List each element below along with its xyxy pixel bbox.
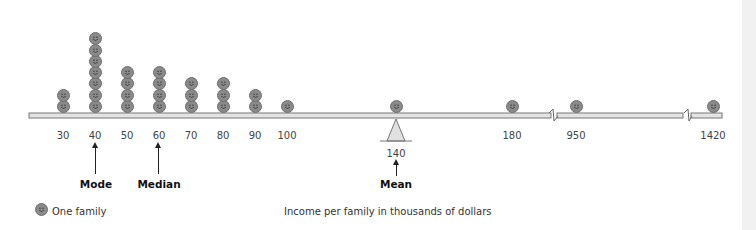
family-face-icon [89,44,102,57]
family-face-icon [217,77,230,90]
family-face-icon [185,89,198,102]
tick-label: 40 [89,130,102,141]
family-face-icon [153,100,166,113]
tick-label: 30 [57,130,70,141]
legend-label: One family [52,206,106,217]
legend-face-icon [35,203,48,216]
family-face-icon [707,100,720,113]
tick-label: 1420 [700,130,725,141]
family-face-icon [217,100,230,113]
family-face-icon [570,100,583,113]
mode-label: Mode [80,178,112,190]
tick-label: 70 [185,130,198,141]
family-face-icon [153,77,166,90]
family-face-icon [121,77,134,90]
tick-label: 180 [502,130,521,141]
family-face-icon [390,100,403,113]
family-face-icon [249,100,262,113]
family-face-icon [89,32,102,45]
family-face-icon [57,100,70,113]
family-face-icon [121,89,134,102]
tick-label: 100 [277,130,296,141]
mode-arrow-icon [95,147,96,174]
median-arrow-icon [158,147,159,174]
family-face-icon [153,66,166,79]
family-face-icon [121,66,134,79]
family-face-icon [249,89,262,102]
tick-label: 950 [566,130,585,141]
family-face-icon [281,100,294,113]
family-face-icon [89,100,102,113]
mean-label: Mean [380,178,412,190]
page-edge [742,0,756,230]
tick-label: 50 [121,130,134,141]
fulcrum-icon [387,119,405,141]
fulcrum-tick-label: 140 [386,148,405,159]
family-face-icon [57,89,70,102]
family-face-icon [217,89,230,102]
family-face-icon [89,55,102,68]
tick-label: 60 [153,130,166,141]
balance-beam [0,0,756,230]
family-face-icon [185,100,198,113]
tick-label: 80 [217,130,230,141]
mean-arrow-icon [396,164,397,176]
x-axis-label: Income per family in thousands of dollar… [284,206,492,217]
family-face-icon [89,66,102,79]
family-face-icon [506,100,519,113]
median-label: Median [137,178,180,190]
family-face-icon [185,77,198,90]
family-face-icon [153,89,166,102]
family-face-icon [89,77,102,90]
tick-label: 90 [249,130,262,141]
family-face-icon [121,100,134,113]
family-face-icon [89,89,102,102]
